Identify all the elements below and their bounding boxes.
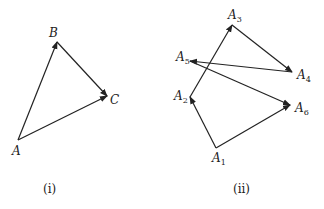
caption-ii: (ii) [233, 182, 250, 196]
vector-AC [18, 96, 107, 140]
vector-BC [57, 42, 107, 96]
vector-AB [18, 42, 57, 140]
point-label-A1: A1 [211, 151, 226, 167]
vector-A2A3 [190, 25, 232, 97]
point-label-A4: A4 [296, 68, 311, 84]
point-label-A: A [11, 144, 21, 158]
figure-ii: A1 A2 A3 A4 A5 A6 (ii) [173, 8, 311, 196]
point-label-A2: A2 [173, 89, 188, 105]
point-label-A3: A3 [227, 8, 242, 24]
figure-i: A B C (i) [11, 26, 119, 196]
vector-A3A4 [232, 25, 292, 72]
point-label-A5: A5 [175, 50, 190, 66]
vector-diagrams: A B C (i) A1 A2 A3 A4 A5 A6 (ii) [0, 0, 324, 209]
vector-A1A6 [216, 105, 290, 148]
vector-A5A6 [190, 61, 290, 105]
caption-i: (i) [43, 182, 56, 196]
point-label-C: C [110, 93, 119, 107]
vector-A1A2 [190, 97, 216, 148]
point-label-A6: A6 [294, 101, 309, 117]
point-label-B: B [48, 26, 58, 40]
